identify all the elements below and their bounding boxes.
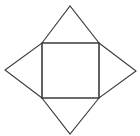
left-triangle <box>5 43 42 98</box>
pyramid-net-diagram <box>0 0 140 136</box>
right-triangle <box>99 43 136 98</box>
base-square <box>42 43 99 98</box>
bottom-triangle <box>42 98 99 134</box>
top-triangle <box>42 6 99 43</box>
